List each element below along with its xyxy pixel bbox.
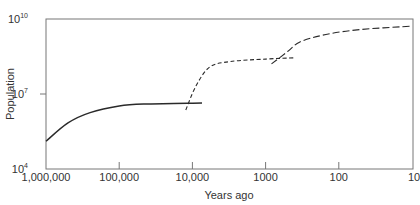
x-tick-label: 1,000,000 (22, 171, 71, 183)
series-line-1 (46, 103, 202, 141)
series-line-2 (186, 58, 295, 110)
series-layer (46, 26, 412, 141)
y-axis-title: Population (4, 68, 16, 120)
plot-frame (46, 19, 413, 169)
x-tick-label: 100 (330, 171, 348, 183)
x-tick-label: 10 (408, 171, 420, 183)
x-tick-label: 1000 (253, 171, 277, 183)
population-chart: 1,000,000100,00010,000100010010 10410710… (0, 0, 420, 205)
x-axis: 1,000,000100,00010,000100010010 (22, 162, 420, 183)
y-tick-label: 1010 (8, 12, 28, 25)
plot-border (46, 19, 413, 169)
x-tick-label: 10,000 (176, 171, 210, 183)
x-axis-title: Years ago (204, 189, 253, 201)
x-tick-label: 100,000 (99, 171, 139, 183)
